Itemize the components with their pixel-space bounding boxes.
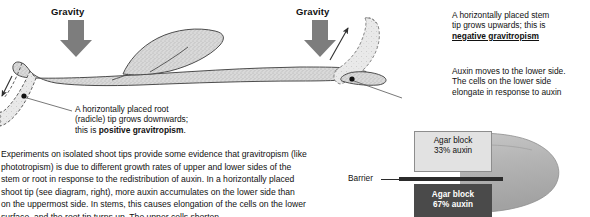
root-annotation-prefix: this is (75, 125, 99, 135)
body-line-4: shoot tip (see diagram, right), more aux… (1, 186, 346, 199)
down-left-arrow-icon (2, 76, 12, 96)
gravity-label-right: Gravity (296, 6, 329, 17)
stem-annotation-line2: tip grows upwards; this is (452, 20, 549, 30)
figure-canvas: Gravity Gravity A horizontally placed st… (0, 0, 590, 217)
body-line-1: Experiments on isolated shoot tips provi… (1, 148, 346, 161)
seedling-diagram (0, 0, 470, 130)
gravity-label-left: Gravity (51, 6, 84, 17)
barrier-label: Barrier (348, 173, 373, 183)
auxin-annotation-line2: The cells on the lower side (452, 76, 566, 86)
body-line-3: stem or root in response to the redistri… (1, 173, 346, 186)
body-paragraph: Experiments on isolated shoot tips provi… (1, 148, 346, 217)
root-annotation-line2: (radicle) tip grows downwards; (75, 114, 188, 124)
agar-block-top-line2: 33% auxin (415, 146, 491, 156)
body-line-6: surface, and the root tip turns up. The … (1, 211, 346, 217)
stem-annotation-term: negative gravitropism (452, 31, 539, 41)
up-right-arrow-icon (330, 28, 348, 60)
barrier-leader-line (381, 179, 401, 180)
auxin-dot-icon (349, 76, 354, 81)
agar-block-bottom-line2: 67% auxin (414, 200, 492, 210)
shoot-tip-junction (341, 72, 386, 86)
barrier-bar (399, 177, 503, 181)
auxin-annotation: Auxin moves to the lower side. The cells… (452, 66, 566, 97)
body-line-2: phototropism) is due to different growth… (1, 161, 346, 174)
root-annotation-leader (27, 98, 72, 111)
agar-block-top-line1: Agar block (415, 136, 491, 146)
agar-block-bottom: Agar block 67% auxin (414, 184, 492, 217)
down-arrow-icon (304, 20, 336, 57)
stem-annotation-line1: A horizontally placed stem (452, 10, 549, 20)
root-annotation-term: positive gravitropism (99, 125, 184, 135)
root-annotation-line1: A horizontally placed root (75, 104, 188, 114)
root-annotation: A horizontally placed root (radicle) tip… (75, 104, 188, 135)
agar-block-bottom-line1: Agar block (414, 190, 492, 200)
down-arrow-icon (60, 20, 92, 57)
cotyledon-shape (123, 29, 223, 75)
auxin-annotation-line3: elongate in response to auxin (452, 87, 566, 97)
stem-annotation-line3: negative gravitropism (452, 31, 549, 41)
root-annotation-suffix: . (183, 125, 185, 135)
hypocotyl-shape (13, 62, 366, 86)
auxin-dot-icon (21, 93, 26, 98)
body-line-5: on the uppermost side. In stems, this ca… (1, 198, 346, 211)
radicle-tip-shape (0, 71, 36, 126)
auxin-annotation-line1: Auxin moves to the lower side. (452, 66, 566, 76)
stem-annotation: A horizontally placed stem tip grows upw… (452, 10, 549, 41)
agar-block-top: Agar block 33% auxin (414, 131, 492, 172)
root-annotation-line3: this is positive gravitropism. (75, 125, 188, 135)
